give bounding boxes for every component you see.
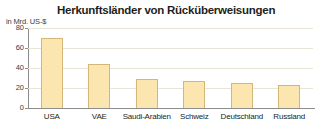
chart-title: Herkunftsländer von Rücküberweisungen — [57, 3, 307, 17]
bar — [278, 85, 300, 108]
gridline — [28, 28, 313, 29]
gridline — [28, 68, 313, 69]
bar — [88, 64, 110, 108]
y-axis-tick-labels: 020406080 — [0, 28, 24, 108]
y-tick-mark — [25, 108, 28, 109]
y-tick-label: 0 — [20, 104, 24, 112]
y-tick-label: 60 — [16, 44, 24, 52]
x-tick-label: USA — [44, 112, 60, 122]
figure-bottom-margin — [0, 130, 319, 134]
y-axis-unit-label: in Mrd. US-$ — [6, 17, 46, 26]
plot-area — [28, 28, 313, 108]
bar — [231, 83, 253, 108]
bar-chart-figure: Herkunftsländer von Rücküberweisungen in… — [0, 0, 319, 134]
y-tick-mark — [25, 68, 28, 69]
y-tick-mark — [25, 88, 28, 89]
x-tick-label: VAE — [92, 112, 107, 122]
y-tick-label: 40 — [16, 64, 24, 72]
y-tick-label: 20 — [16, 84, 24, 92]
x-tick-label: Saudi-Arabien — [123, 112, 171, 122]
x-axis-line — [26, 108, 315, 109]
bar — [41, 38, 63, 108]
x-tick-label: Schweiz — [180, 112, 208, 122]
bar — [183, 81, 205, 108]
y-tick-mark — [25, 48, 28, 49]
gridline — [28, 88, 313, 89]
x-axis-category-labels: USAVAESaudi-ArabienSchweizDeutschlandRus… — [28, 112, 313, 126]
gridline — [28, 48, 313, 49]
y-tick-mark — [25, 28, 28, 29]
bar — [136, 79, 158, 108]
x-tick-label: Russland — [273, 112, 305, 122]
y-tick-label: 80 — [16, 24, 24, 32]
x-tick-label: Deutschland — [221, 112, 263, 122]
